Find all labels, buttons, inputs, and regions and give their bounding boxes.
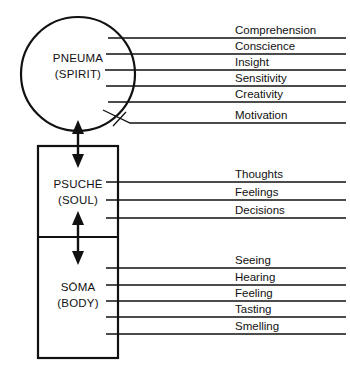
body-greek-label: SŌMA [61,281,96,293]
spirit-function-insight: Insight [235,56,270,68]
body-function-hearing: Hearing [235,271,275,283]
spirit-function-motivation: Motivation [235,109,287,121]
spirit-function-creativity: Creativity [235,88,283,100]
body-function-seeing: Seeing [235,254,271,266]
spirit-function-comprehension: Comprehension [235,24,316,36]
body-english-label: (BODY) [57,297,98,309]
spirit-line-6 [103,110,346,123]
diagram-canvas: PNEUMA (SPIRIT) PSUCHĒ (SOUL) SŌMA (BODY… [0,0,350,374]
soul-function-decisions: Decisions [235,204,285,216]
spirit-english-label: (SPIRIT) [55,68,101,80]
spirit-function-sensitivity: Sensitivity [235,72,287,84]
spirit-soul-arrow [72,120,84,168]
spirit-function-conscience: Conscience [235,40,295,52]
spirit-greek-label: PNEUMA [53,52,104,64]
body-function-smelling: Smelling [235,320,279,332]
soul-function-thoughts: Thoughts [235,168,283,180]
soul-function-feelings: Feelings [235,186,279,198]
soul-greek-label: PSUCHĒ [53,178,102,190]
body-function-feeling: Feeling [235,287,273,299]
tripartite-nature-diagram: PNEUMA (SPIRIT) PSUCHĒ (SOUL) SŌMA (BODY… [0,0,350,374]
soul-english-label: (SOUL) [58,194,98,206]
body-function-tasting: Tasting [235,303,271,315]
